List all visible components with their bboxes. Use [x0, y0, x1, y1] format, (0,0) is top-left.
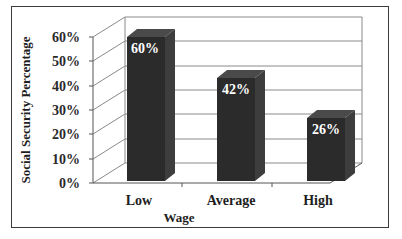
bar-value-label: 60% [131, 41, 159, 56]
bar-value-label: 42% [222, 82, 250, 97]
bar-value-label: 26% [312, 122, 340, 137]
x-tick-labels: Low Average High [126, 193, 333, 208]
bar-average: 42% [217, 70, 265, 181]
bar-high: 26% [307, 110, 355, 181]
svg-text:60%: 60% [52, 30, 80, 45]
svg-text:High: High [303, 193, 333, 208]
svg-text:20%: 20% [52, 127, 80, 142]
svg-text:30%: 30% [52, 103, 80, 118]
svg-text:Low: Low [126, 193, 153, 208]
svg-text:0%: 0% [59, 176, 80, 191]
chart-svg: 60% 50% 40% 30% 20% 10% 0% Social Securi… [0, 0, 402, 239]
svg-text:40%: 40% [52, 79, 80, 94]
svg-text:50%: 50% [52, 54, 80, 69]
y-axis-title: Social Security Percentage [18, 36, 33, 183]
side-wall [93, 17, 125, 183]
x-axis-title: Wage [163, 210, 194, 225]
y-tick-labels: 60% 50% 40% 30% 20% 10% 0% [52, 30, 80, 191]
svg-text:10%: 10% [52, 152, 80, 167]
svg-text:Average: Average [207, 193, 256, 208]
bar-low: 60% [127, 29, 175, 181]
